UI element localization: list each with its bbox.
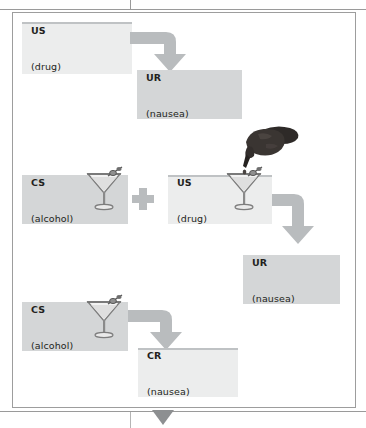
martini-glass-icon-3 xyxy=(82,288,126,342)
page-gutter-top xyxy=(130,0,131,9)
hand-with-dropper-icon xyxy=(232,124,300,176)
us-drug-label-2: US (drug) xyxy=(177,153,207,249)
triangle-down-icon xyxy=(152,410,174,426)
ur-nausea-box-1: UR (nausea) xyxy=(137,70,242,119)
plus-sign-icon xyxy=(132,188,154,210)
classical-conditioning-figure: US (drug) UR (nausea) CS (alcohol) xyxy=(0,0,366,428)
us-drug-label-1: US (drug) xyxy=(31,1,61,97)
ur-nausea-label-1: UR (nausea) xyxy=(146,48,189,144)
cr-nausea-box: CR (nausea) xyxy=(138,348,238,397)
page-gutter-bottom xyxy=(130,412,131,428)
ur-nausea-label-2: UR (nausea) xyxy=(252,233,295,329)
us-drug-box-1: US (drug) xyxy=(22,22,132,74)
cs-alcohol-label-2: CS (alcohol) xyxy=(31,280,73,376)
ur-nausea-box-2: UR (nausea) xyxy=(243,255,340,304)
martini-glass-icon-1 xyxy=(82,160,126,214)
cs-alcohol-label-1: CS (alcohol) xyxy=(31,153,73,249)
cr-nausea-label: CR (nausea) xyxy=(147,326,190,422)
